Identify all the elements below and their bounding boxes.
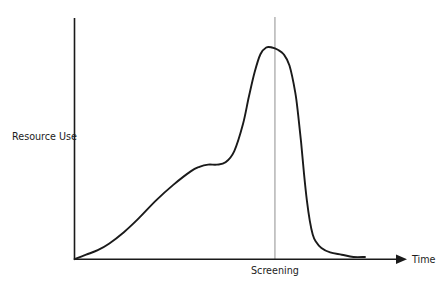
screening-label: Screening [251, 265, 299, 276]
x-axis-label: Time [411, 254, 436, 265]
y-axis-label: Resource Use [12, 131, 77, 142]
chart-background [0, 0, 445, 287]
chart-figure: Resource Use Time Screening [0, 0, 445, 287]
resource-use-vs-time-chart: Resource Use Time Screening [0, 0, 445, 287]
